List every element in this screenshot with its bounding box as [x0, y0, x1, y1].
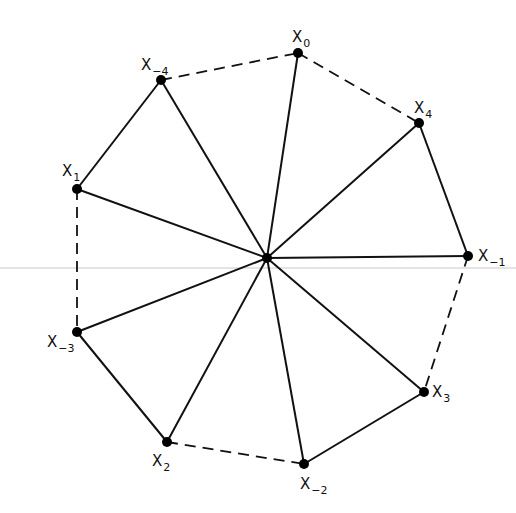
vertex-label-xm2: X−2 [300, 475, 328, 497]
vertex-label-x3: X3 [432, 383, 450, 405]
solid-edge-xm4-x1 [77, 80, 161, 189]
solid-edge-x4-xm1 [419, 123, 468, 256]
spoke-x3 [267, 258, 424, 392]
spoke-xm3 [77, 258, 267, 332]
solid-edge-xm3-x2 [77, 332, 167, 442]
vertex-point-x1 [72, 184, 82, 194]
spoke-xm2 [267, 258, 304, 464]
vertex-label-x2: X2 [152, 452, 170, 474]
vertex-point-xm2 [299, 459, 309, 469]
vertex-label-x0: X0 [292, 28, 310, 50]
dashed-edge-x0-x4 [298, 53, 419, 123]
dashed-edge-xm4-x0 [161, 53, 298, 80]
spoke-xm1 [267, 256, 468, 258]
spoke-x0 [267, 53, 298, 258]
vertex-point-x3 [419, 387, 429, 397]
solid-edges [77, 80, 468, 464]
center-point [262, 253, 272, 263]
vertex-point-xm3 [72, 327, 82, 337]
vertex-label-xm3: X−3 [47, 333, 75, 355]
vertex-point-x2 [162, 437, 172, 447]
vertex-label-x4: X4 [414, 99, 432, 121]
vertex-label-x1: X1 [62, 162, 80, 184]
vertex-labels: X0X4X−1X3X−2X2X−3X1X−4 [47, 28, 506, 497]
spoke-xm4 [161, 80, 267, 258]
spoke-x2 [167, 258, 267, 442]
vertex-label-xm1: X−1 [478, 247, 506, 269]
dashed-edge-xm1-x3 [424, 256, 468, 392]
spoke-x1 [77, 189, 267, 258]
dashed-edge-x2-xm2 [167, 442, 304, 464]
vertex-point-x4 [414, 118, 424, 128]
vertex-point-x0 [293, 48, 303, 58]
spoke-x4 [267, 123, 419, 258]
vertex-point-xm1 [463, 251, 473, 261]
polygon-star-diagram: X0X4X−1X3X−2X2X−3X1X−4 [0, 0, 516, 513]
solid-edge-xm2-x3 [304, 392, 424, 464]
vertex-label-xm4: X−4 [141, 56, 169, 78]
